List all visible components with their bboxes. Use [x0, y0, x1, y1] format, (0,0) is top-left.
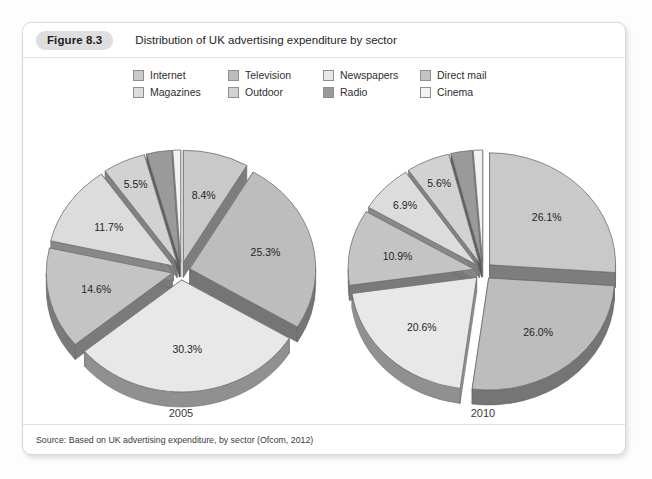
chart-legend: Internet Television Newspapers Direct ma… [23, 69, 625, 98]
legend-swatch-cinema [420, 87, 431, 98]
pie-slice-value: 14.6% [81, 283, 111, 295]
figure-screenshot: Figure 8.3 Distribution of UK advertisin… [0, 0, 652, 479]
legend-swatch-television [228, 70, 239, 81]
figure-source: Source: Based on UK advertising expendit… [23, 424, 625, 454]
pie-slice-value: 11.7% [94, 221, 123, 233]
charts-area: 8.4%25.3%30.3%14.6%11.7%5.5%3.2%1.0% 200… [23, 131, 625, 421]
legend-swatch-newspapers [323, 70, 334, 81]
pie-slice-value: 5.5% [124, 178, 148, 190]
pie-svg-2010: 26.1%26.0%20.6%10.9%6.9%5.6%2.7%1.2% [333, 131, 626, 421]
legend-label-television: Television [245, 69, 291, 81]
legend-label-direct-mail: Direct mail [437, 69, 487, 81]
legend-label-cinema: Cinema [437, 86, 473, 98]
legend-swatch-direct-mail [420, 70, 431, 81]
pie-slice-value: 5.6% [427, 177, 451, 189]
source-text: Source: Based on UK advertising expendit… [36, 435, 313, 445]
legend-row-2: Magazines Outdoor Radio Cinema [133, 86, 515, 98]
legend-label-internet: Internet [150, 69, 186, 81]
legend-swatch-magazines [133, 87, 144, 98]
legend-label-magazines: Magazines [150, 86, 201, 98]
legend-item-cinema: Cinema [420, 86, 515, 98]
pie-chart-2010: 26.1%26.0%20.6%10.9%6.9%5.6%2.7%1.2% 201… [333, 131, 626, 421]
year-label-2005: 2005 [31, 407, 331, 419]
legend-swatch-internet [133, 70, 144, 81]
legend-item-television: Television [228, 69, 323, 81]
legend-swatch-outdoor [228, 87, 239, 98]
pie-slice-value: 25.3% [251, 246, 281, 258]
pie-slice-value: 8.4% [192, 189, 216, 201]
pie-slice-value: 30.3% [172, 343, 202, 355]
pie-slice-value: 10.9% [383, 250, 413, 262]
pie-slice-value: 26.1% [532, 211, 562, 223]
year-label-2010: 2010 [333, 407, 626, 419]
pie-svg-2005: 8.4%25.3%30.3%14.6%11.7%5.5%3.2%1.0% [31, 131, 331, 421]
figure-title: Distribution of UK advertising expenditu… [135, 34, 396, 46]
figure-number-badge: Figure 8.3 [36, 31, 113, 50]
legend-item-magazines: Magazines [133, 86, 228, 98]
pie-chart-2005: 8.4%25.3%30.3%14.6%11.7%5.5%3.2%1.0% 200… [31, 131, 331, 421]
legend-item-radio: Radio [323, 86, 420, 98]
legend-item-internet: Internet [133, 69, 228, 81]
pie-slice-value: 20.6% [407, 321, 437, 333]
legend-item-outdoor: Outdoor [228, 86, 323, 98]
figure-card: Figure 8.3 Distribution of UK advertisin… [22, 22, 626, 455]
legend-label-outdoor: Outdoor [245, 86, 283, 98]
legend-swatch-radio [323, 87, 334, 98]
legend-item-newspapers: Newspapers [323, 69, 420, 81]
legend-row-1: Internet Television Newspapers Direct ma… [133, 69, 515, 81]
pie-slice-value: 3.2% [143, 131, 167, 133]
legend-label-newspapers: Newspapers [340, 69, 398, 81]
legend-label-radio: Radio [340, 86, 367, 98]
pie-slice-value: 6.9% [393, 199, 417, 211]
pie-slice-value: 26.0% [523, 326, 553, 338]
legend-item-direct-mail: Direct mail [420, 69, 515, 81]
figure-header: Figure 8.3 Distribution of UK advertisin… [23, 23, 625, 58]
